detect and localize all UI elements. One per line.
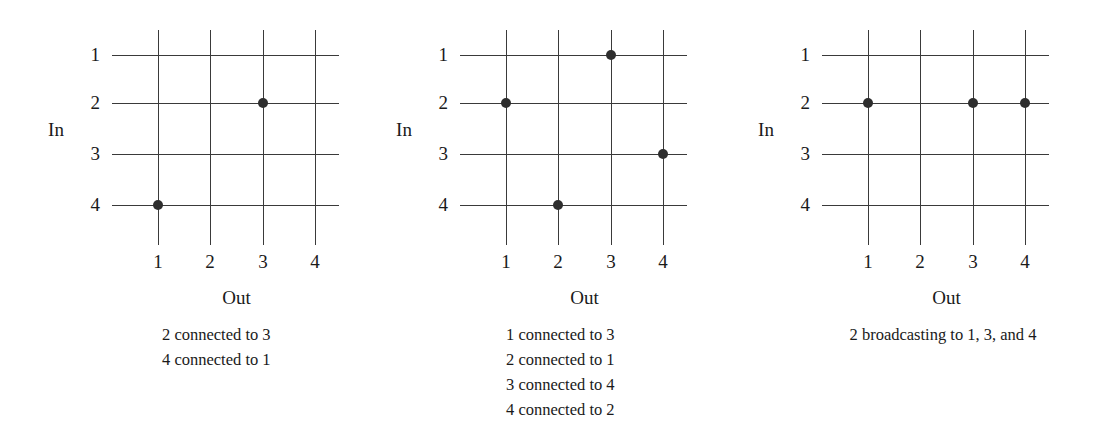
- crossbar-figure: 12341234InOut2 connected to 34 connected…: [0, 0, 1095, 445]
- in-tick-3: 3: [78, 144, 100, 163]
- crosspoint-dot-in2-out4[interactable]: [1020, 98, 1030, 108]
- out-tick-3: 3: [251, 252, 275, 271]
- in-tick-3: 3: [426, 144, 448, 163]
- output-line-2: [558, 30, 559, 245]
- out-tick-4: 4: [303, 252, 327, 271]
- output-line-3: [973, 30, 974, 245]
- output-line-1: [506, 30, 507, 245]
- caption-line: 1 connected to 3: [506, 322, 615, 347]
- crossbar-panel-3: 12341234InOut2 broadcasting to 1, 3, and…: [710, 0, 1075, 445]
- crosspoint-dot-in3-out4[interactable]: [658, 149, 668, 159]
- out-tick-2: 2: [198, 252, 222, 271]
- out-tick-1: 1: [146, 252, 170, 271]
- crossbar-grid: 12341234In: [0, 0, 365, 250]
- out-axis-label: Out: [545, 288, 625, 307]
- output-line-1: [868, 30, 869, 245]
- output-line-2: [210, 30, 211, 245]
- crossbar-grid: 12341234In: [710, 0, 1075, 250]
- caption-line: 3 connected to 4: [506, 372, 615, 397]
- input-line-3: [460, 154, 687, 155]
- crossbar-panel-1: 12341234InOut2 connected to 34 connected…: [0, 0, 365, 445]
- out-tick-4: 4: [651, 252, 675, 271]
- crossbar-panel-2: 12341234InOut1 connected to 32 connected…: [350, 0, 715, 445]
- output-line-4: [663, 30, 664, 245]
- in-tick-1: 1: [788, 45, 810, 64]
- crosspoint-dot-in2-out1[interactable]: [501, 98, 511, 108]
- crosspoint-dot-in2-out3[interactable]: [258, 98, 268, 108]
- crossbar-grid: 12341234In: [350, 0, 715, 250]
- out-tick-1: 1: [856, 252, 880, 271]
- in-tick-1: 1: [78, 45, 100, 64]
- input-line-4: [112, 205, 339, 206]
- panel-caption: 2 connected to 34 connected to 1: [162, 322, 271, 372]
- output-line-3: [611, 30, 612, 245]
- in-tick-2: 2: [78, 93, 100, 112]
- caption-line: 4 connected to 1: [162, 347, 271, 372]
- panel-caption: 2 broadcasting to 1, 3, and 4: [763, 322, 1095, 347]
- out-axis-label: Out: [907, 288, 987, 307]
- input-line-3: [112, 154, 339, 155]
- in-tick-3: 3: [788, 144, 810, 163]
- input-line-2: [822, 103, 1049, 104]
- input-line-4: [460, 205, 687, 206]
- panel-caption: 1 connected to 32 connected to 13 connec…: [506, 322, 615, 422]
- input-line-1: [822, 55, 1049, 56]
- input-line-3: [822, 154, 1049, 155]
- caption-line: 2 broadcasting to 1, 3, and 4: [763, 322, 1095, 347]
- out-tick-2: 2: [546, 252, 570, 271]
- output-line-4: [315, 30, 316, 245]
- out-tick-3: 3: [599, 252, 623, 271]
- in-axis-label: In: [746, 120, 786, 139]
- output-line-3: [263, 30, 264, 245]
- crosspoint-dot-in2-out3[interactable]: [968, 98, 978, 108]
- in-axis-label: In: [36, 120, 76, 139]
- output-line-4: [1025, 30, 1026, 245]
- output-line-1: [158, 30, 159, 245]
- input-line-1: [112, 55, 339, 56]
- in-tick-1: 1: [426, 45, 448, 64]
- in-tick-2: 2: [426, 93, 448, 112]
- in-tick-4: 4: [788, 195, 810, 214]
- in-tick-2: 2: [788, 93, 810, 112]
- crosspoint-dot-in4-out1[interactable]: [153, 200, 163, 210]
- in-tick-4: 4: [426, 195, 448, 214]
- crosspoint-dot-in2-out1[interactable]: [863, 98, 873, 108]
- input-line-1: [460, 55, 687, 56]
- caption-line: 4 connected to 2: [506, 397, 615, 422]
- input-line-2: [112, 103, 339, 104]
- out-axis-label: Out: [197, 288, 277, 307]
- input-line-4: [822, 205, 1049, 206]
- in-axis-label: In: [384, 120, 424, 139]
- crosspoint-dot-in1-out3[interactable]: [606, 50, 616, 60]
- out-tick-3: 3: [961, 252, 985, 271]
- output-line-2: [920, 30, 921, 245]
- input-line-2: [460, 103, 687, 104]
- crosspoint-dot-in4-out2[interactable]: [553, 200, 563, 210]
- out-tick-1: 1: [494, 252, 518, 271]
- out-tick-2: 2: [908, 252, 932, 271]
- caption-line: 2 connected to 1: [506, 347, 615, 372]
- out-tick-4: 4: [1013, 252, 1037, 271]
- caption-line: 2 connected to 3: [162, 322, 271, 347]
- in-tick-4: 4: [78, 195, 100, 214]
